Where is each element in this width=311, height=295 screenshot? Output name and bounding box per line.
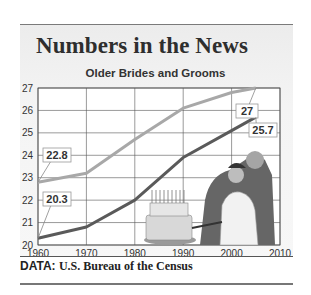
bottom-rule (20, 283, 293, 285)
plot-area: 2021222324252627196019701980199020002010… (22, 83, 292, 260)
data-source-text: U.S. Bureau of the Census (59, 259, 193, 273)
x-tick-label: 2000 (220, 248, 243, 259)
y-tick-label: 23 (22, 172, 34, 183)
x-tick-label: 1960 (27, 248, 50, 259)
x-tick-label: 1980 (124, 248, 147, 259)
line-chart: 2021222324252627196019701980199020002010… (0, 0, 311, 295)
y-tick-label: 22 (22, 195, 34, 206)
data-source: DATA: U.S. Bureau of the Census (20, 259, 193, 274)
y-tick-label: 21 (22, 217, 34, 228)
data-source-label: DATA: (20, 259, 56, 273)
x-tick-label: 1990 (172, 248, 195, 259)
y-tick-label: 24 (22, 150, 34, 161)
x-tick-label: 1970 (75, 248, 98, 259)
data-label: 27 (241, 105, 253, 117)
y-tick-label: 26 (22, 105, 34, 116)
data-label: 22.8 (46, 149, 67, 161)
x-tick-label: 2010 (269, 248, 292, 259)
y-tick-label: 25 (22, 127, 34, 138)
data-label: 25.7 (252, 124, 273, 136)
data-label: 20.3 (46, 193, 67, 205)
y-tick-label: 27 (22, 83, 34, 94)
footer-rule (20, 256, 293, 257)
